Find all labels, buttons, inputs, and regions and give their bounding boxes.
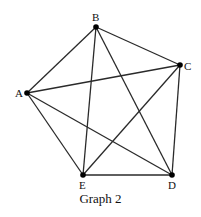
vertex-label-E: E bbox=[79, 179, 86, 191]
vertex-C bbox=[177, 62, 183, 68]
edge-CE bbox=[83, 65, 180, 175]
vertex-D bbox=[169, 172, 175, 178]
vertex-label-A: A bbox=[15, 87, 23, 99]
edge-CD bbox=[172, 65, 180, 175]
vertex-B bbox=[93, 24, 99, 30]
graph-caption: Graph 2 bbox=[0, 191, 201, 207]
edge-BE bbox=[83, 27, 96, 175]
edge-BC bbox=[96, 27, 180, 65]
graph-canvas: ABCDE bbox=[0, 0, 201, 217]
vertex-label-C: C bbox=[184, 60, 191, 72]
vertex-label-B: B bbox=[92, 11, 99, 23]
graph-edges bbox=[27, 27, 180, 175]
vertex-E bbox=[80, 172, 86, 178]
graph-vertices bbox=[24, 24, 183, 178]
edge-AB bbox=[27, 27, 96, 93]
vertex-label-D: D bbox=[168, 179, 176, 191]
vertex-A bbox=[24, 90, 30, 96]
edge-AE bbox=[27, 93, 83, 175]
edge-AC bbox=[27, 65, 180, 93]
